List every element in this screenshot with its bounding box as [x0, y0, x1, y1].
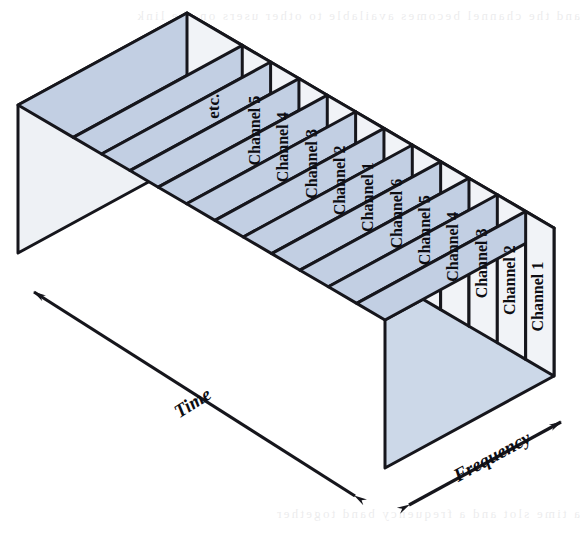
slice-label: Channel 2: [501, 245, 518, 315]
time-axis-label: Time: [170, 383, 215, 422]
slice-label: Channel 2: [331, 146, 348, 216]
slice-label: Channel 3: [473, 229, 490, 299]
time-axis: Time: [34, 292, 355, 496]
slice-label: Channel 1: [359, 162, 376, 232]
figure-root: and the channel becomes available to oth…: [0, 0, 580, 533]
slice-label: Channel 5: [246, 96, 263, 166]
tdm-fdm-block-diagram: etc.Channel 5Channel 4Channel 3Channel 2…: [0, 0, 580, 533]
slice-label: Channel 4: [444, 212, 461, 282]
slice-label: Channel 1: [530, 262, 547, 332]
slice-label: Channel 3: [303, 129, 320, 199]
frequency-axis-label: Frequency: [449, 427, 535, 487]
slice-label: Channel 6: [388, 179, 405, 249]
slice-label: Channel 5: [416, 195, 433, 265]
slice-label: Channel 4: [274, 112, 291, 182]
slice-label: etc.: [204, 94, 223, 119]
